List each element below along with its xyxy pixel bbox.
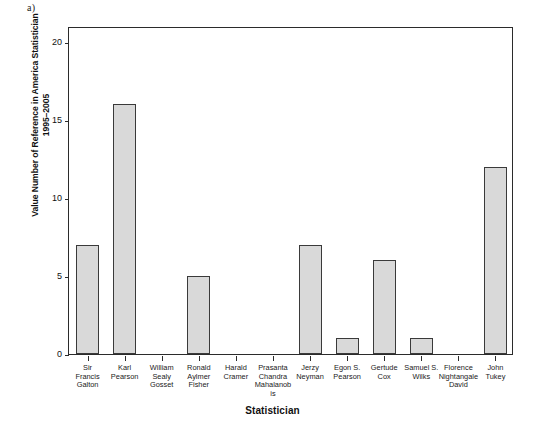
x-axis-category-label: SirFrancisGalton xyxy=(67,364,108,390)
x-axis-category-label-line: Neyman xyxy=(290,373,331,382)
x-axis-category-label-line: Tukey xyxy=(475,373,516,382)
x-axis-category-label: Samuel S.Wilks xyxy=(401,364,442,381)
bar xyxy=(76,245,99,354)
x-axis-tick-mark xyxy=(162,356,163,361)
x-axis-category-label: RonaldAylmerFisher xyxy=(178,364,219,390)
y-axis-tick-label: 15 xyxy=(52,115,62,125)
x-axis-category-label: JohnTukey xyxy=(475,364,516,381)
bar xyxy=(373,260,396,354)
y-axis-tick-mark xyxy=(65,199,69,200)
y-axis-tick-mark xyxy=(65,43,69,44)
x-axis-tick-mark xyxy=(125,356,126,361)
x-axis-category-label-line: Gosset xyxy=(141,381,182,390)
x-axis-category-label: FlorenceNightangaleDavid xyxy=(438,364,479,390)
y-axis-tick-mark xyxy=(65,355,69,356)
y-axis-tick-mark xyxy=(65,121,69,122)
x-axis-category-label: Egon S.Pearson xyxy=(327,364,368,381)
x-axis-title: Statistician xyxy=(0,405,545,416)
y-axis-title-line2: 1995–2005 xyxy=(41,13,53,217)
x-axis-category-label-line: Cox xyxy=(364,373,405,382)
x-axis-category-label-line: Wilks xyxy=(401,373,442,382)
x-axis-tick-mark xyxy=(495,356,496,361)
x-axis-tick-mark xyxy=(310,356,311,361)
x-axis-tick-mark xyxy=(347,356,348,361)
x-axis-category-label: HaraldCramer xyxy=(215,364,256,381)
x-axis-category-label-line: Galton xyxy=(67,381,108,390)
y-axis-title-line1: Value Number of Reference in America Sta… xyxy=(30,13,42,217)
bar xyxy=(410,338,433,354)
x-axis-tick-mark xyxy=(458,356,459,361)
plot-inner: 05101520SirFrancisGaltonKarlPearsonWilli… xyxy=(69,28,512,354)
x-axis-category-label: PrasantaChandraMahalanobis xyxy=(252,364,293,398)
y-axis-tick-label: 0 xyxy=(57,349,62,359)
bar xyxy=(187,276,210,354)
x-axis-tick-mark xyxy=(199,356,200,361)
bar xyxy=(336,338,359,354)
bar-chart-figure: a) Value Number of Reference in America … xyxy=(0,0,545,428)
bar xyxy=(299,245,322,354)
y-axis-tick-label: 20 xyxy=(52,37,62,47)
y-axis-tick-label: 10 xyxy=(52,193,62,203)
x-axis-category-label-line: Pearson xyxy=(104,373,145,382)
x-axis-category-label-line: is xyxy=(252,390,293,399)
x-axis-tick-mark xyxy=(384,356,385,361)
x-axis-tick-mark xyxy=(88,356,89,361)
x-axis-tick-mark xyxy=(236,356,237,361)
x-axis-category-label: JerzyNeyman xyxy=(290,364,331,381)
x-axis-tick-mark xyxy=(273,356,274,361)
x-axis-category-label-line: Pearson xyxy=(327,373,368,382)
x-axis-category-label-line: David xyxy=(438,381,479,390)
x-axis-category-label: WilliamSealyGosset xyxy=(141,364,182,390)
x-axis-category-label: GertudeCox xyxy=(364,364,405,381)
panel-letter: a) xyxy=(27,2,35,13)
bar xyxy=(113,104,136,354)
y-axis-tick-label: 5 xyxy=(57,271,62,281)
plot-area: 05101520SirFrancisGaltonKarlPearsonWilli… xyxy=(68,27,513,355)
x-axis-category-label-line: Fisher xyxy=(178,381,219,390)
x-axis-category-label: KarlPearson xyxy=(104,364,145,381)
x-axis-category-label-line: Cramer xyxy=(215,373,256,382)
x-axis-tick-mark xyxy=(421,356,422,361)
y-axis-tick-mark xyxy=(65,277,69,278)
bar xyxy=(484,167,507,354)
